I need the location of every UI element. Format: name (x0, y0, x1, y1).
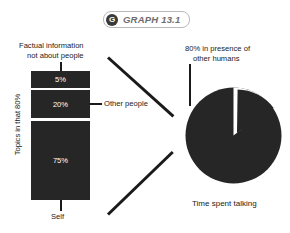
pie-caption: Time spent talking (192, 199, 257, 209)
bar-segment-self-value: 75% (53, 156, 68, 165)
callout-factual-line1: Factual information (19, 41, 84, 51)
callout-self-leader-line (60, 200, 62, 211)
bar-segment-factual-value: 5% (55, 75, 66, 84)
callout-factual-line2: not about people (27, 51, 84, 61)
callout-self: Self (51, 212, 64, 222)
callout-other-people-leader-line (90, 103, 102, 105)
connector-line-lower (107, 151, 174, 216)
graph-figure: G GRAPH 13.1 Topics in that 80% Factual … (0, 0, 290, 233)
graph-badge-marker-icon: G (106, 14, 118, 26)
graph-badge: G GRAPH 13.1 (103, 11, 190, 28)
bar-axis-label: Topics in that 80% (13, 82, 22, 168)
pie-chart (185, 87, 282, 184)
bar-segment-other-people: 20% (31, 90, 90, 118)
bar-segment-other-people-value: 20% (53, 100, 68, 109)
pie-chart-svg (185, 87, 282, 184)
callout-factual-leader-line (60, 62, 62, 71)
callout-other-people: Other people (104, 99, 148, 109)
callout-presence-line2: other humans (193, 54, 239, 64)
callout-presence-line1: 80% in presence of (185, 44, 250, 54)
bar-segment-factual: 5% (31, 71, 90, 88)
graph-badge-label: GRAPH 13.1 (123, 14, 180, 25)
bar-segment-self: 75% (31, 121, 90, 200)
